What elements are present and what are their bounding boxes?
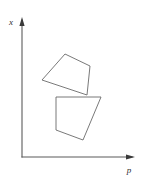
x-axis-label: p (126, 165, 132, 175)
upper-quadrilateral (42, 54, 90, 95)
y-axis-label: x (8, 17, 13, 27)
lower-quadrilateral (56, 97, 101, 140)
arrow-up-icon (19, 17, 24, 26)
arrow-right-icon (126, 154, 135, 159)
diagram-svg: x p (0, 0, 146, 181)
figure-canvas: x p (0, 0, 146, 181)
